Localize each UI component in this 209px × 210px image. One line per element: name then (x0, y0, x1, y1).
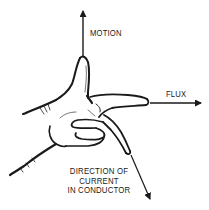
motion-label: MOTION (90, 29, 122, 38)
flux-label: FLUX (166, 90, 186, 99)
current-label-line-3: IN CONDUCTOR (65, 186, 133, 196)
current-arrow (131, 155, 150, 199)
hand-drawing (10, 57, 148, 175)
current-direction-label: DIRECTION OF CURRENT IN CONDUCTOR (65, 167, 133, 196)
right-hand-rule-diagram: MOTION FLUX DIRECTION OF CURRENT IN COND… (0, 0, 209, 210)
